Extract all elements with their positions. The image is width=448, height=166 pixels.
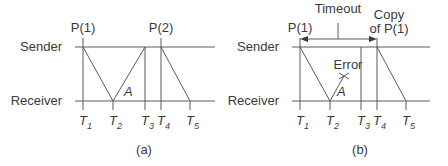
packet-p2-arrow-a [161,47,190,101]
receiver-label-a: Receiver [11,93,63,108]
ack-label-a: A [123,84,133,99]
time-label-t1-a: T1 [79,113,92,131]
packet-label-p1-a: P(1) [71,20,96,35]
packet-copy-arrow-b [377,47,406,101]
receiver-label-b: Receiver [228,93,280,108]
time-label-t2-b: T2 [326,113,339,131]
timeout-label: Timeout [315,1,362,16]
error-label: Error [334,57,364,72]
ack-label-b: A [336,84,346,99]
timeout-arrowhead-left-icon [300,36,308,42]
packet-label-p1-b: P(1) [288,20,313,35]
sender-label-b: Sender [237,39,280,54]
packet-label-p2-a: P(2) [149,20,174,35]
sender-label-a: Sender [20,39,63,54]
time-label-t1-b: T1 [296,113,309,131]
time-label-t4-b: T4 [373,113,386,131]
time-label-t2-a: T2 [109,113,122,131]
timeout-arrowhead-right-icon [369,36,377,42]
stop-and-wait-diagram: Sender Receiver P(1) P(2) A T1 T2 T3 T4 … [0,0,448,166]
caption-a: (a) [136,142,152,157]
packet-p1-arrow-b [300,47,330,101]
caption-b: (b) [352,142,368,157]
time-label-t5-b: T5 [402,113,416,131]
packet-p1-arrow-a [83,47,113,101]
time-label-t3-a: T3 [141,113,154,131]
time-label-t5-a: T5 [186,113,200,131]
copy-label-line1: Copy [374,7,405,22]
time-label-t4-a: T4 [157,113,170,131]
time-label-t3-b: T3 [357,113,370,131]
copy-label-line2: of P(1) [369,21,408,36]
panel-a-lines [75,38,215,110]
